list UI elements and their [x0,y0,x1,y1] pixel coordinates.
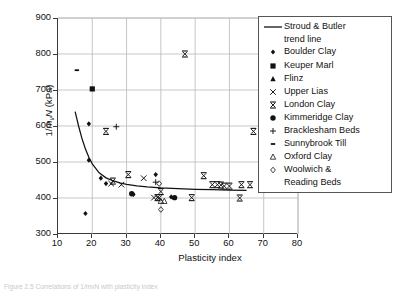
data-marker [270,89,276,95]
legend-marker-line-icon [262,20,284,33]
x-tick-label: 60 [215,239,241,248]
legend-marker-diamond-icon [262,45,284,58]
legend-item-wrap: trend line [262,33,389,45]
data-point [83,211,87,216]
legend-item: London Clay [262,98,389,111]
data-marker [271,50,275,55]
data-point [104,181,108,186]
legend-item-wrap: Reading Beds [262,176,389,188]
x-tick-mark [126,234,127,238]
data-marker [270,76,275,81]
y-tick-mark [53,18,57,19]
legend-item: Sunnybrook Till [262,137,389,150]
data-marker [270,102,276,108]
x-tick-label: 70 [250,239,276,248]
data-point [247,182,253,188]
data-point [141,175,147,181]
x-tick-label: 80 [284,239,310,248]
legend-marker-triangle-up-filled-icon [262,72,284,85]
legend-item: Kimmeridge Clay [262,111,389,124]
figure-caption: Figure 2.5 Correlations of 1/mvN with pl… [4,283,396,291]
x-tick-label: 20 [78,239,104,248]
data-point [251,128,257,134]
data-marker [270,115,275,120]
y-tick-label: 400 [19,193,51,202]
x-axis-title: Plasticity index [120,252,300,263]
data-point [113,124,119,130]
data-point [201,173,207,179]
data-point [129,191,134,196]
legend-label-line2: trend line [262,33,321,46]
legend-label: Boulder Clay [284,45,336,58]
data-point [99,176,103,181]
x-tick-mark [57,234,58,238]
legend-label: Woolwich & [284,163,331,176]
y-tick-label: 900 [19,13,51,22]
data-point [154,172,158,177]
legend-item: Stroud & Butler [262,20,389,33]
y-axis-title: 1/mvN (kPa) [43,55,56,165]
x-tick-label: 40 [147,239,173,248]
legend-label-line2: Reading Beds [262,176,341,189]
legend-label: Sunnybrook Till [284,137,346,150]
legend-label: London Clay [284,98,335,111]
data-point [239,182,245,188]
legend-label: Stroud & Butler [284,20,346,33]
legend-marker-dash-icon [262,137,284,150]
legend-marker-triangle-up-open-icon [262,150,284,163]
data-point [103,128,109,134]
x-tick-mark [228,234,229,238]
legend-label: Upper Lias [284,85,328,98]
legend-marker-square-icon [262,59,284,72]
figure: 900800700600500400300 1020304050607080 1… [0,0,399,297]
legend-item: Boulder Clay [262,45,389,58]
legend-marker-bar-x-icon [262,98,284,111]
legend: Stroud & Butlertrend lineBoulder ClayKeu… [258,16,392,193]
data-point [172,195,177,200]
legend-marker-plus-icon [262,124,284,137]
legend-label: Keuper Marl [284,59,334,72]
legend-marker-circle-filled-icon [262,111,284,124]
x-tick-label: 50 [181,239,207,248]
legend-item: Oxford Clay [262,150,389,163]
x-tick-label: 30 [113,239,139,248]
legend-item: Keuper Marl [262,59,389,72]
legend-item: Upper Lias [262,85,389,98]
legend-item: Bracklesham Beds [262,124,389,137]
data-marker [271,168,276,174]
legend-label: Kimmeridge Clay [284,111,353,124]
chart-area: 900800700600500400300 1020304050607080 1… [0,0,399,268]
legend-label: Bracklesham Beds [284,124,360,137]
legend-label: Flinz [284,72,303,85]
legend-label: Oxford Clay [284,150,332,163]
x-tick-mark [194,234,195,238]
data-marker [270,154,275,159]
data-marker [270,128,276,134]
data-point [90,86,95,91]
x-tick-mark [263,234,264,238]
legend-marker-diamond-open-icon [262,163,284,176]
legend-marker-cross-x-icon [262,85,284,98]
x-tick-mark [160,234,161,238]
y-tick-label: 300 [19,229,51,238]
y-tick-mark [53,198,57,199]
x-tick-mark [91,234,92,238]
data-marker [270,63,275,68]
legend-item: Woolwich & [262,163,389,176]
x-tick-mark [297,234,298,238]
x-tick-label: 10 [44,239,70,248]
data-point [209,182,215,188]
legend-item: Flinz [262,72,389,85]
